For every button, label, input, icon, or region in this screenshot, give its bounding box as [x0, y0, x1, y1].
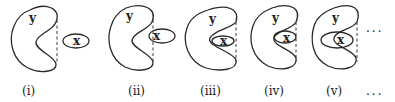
diagram-canvas: y x (i) y x (ii) y x (iii) y x (iv) y x …	[0, 0, 395, 102]
panel-caption: (iv)	[264, 84, 284, 98]
y-label: y	[331, 11, 340, 25]
y-label: y	[125, 9, 134, 23]
y-label: y	[28, 11, 37, 25]
panel-iv: y x (iv)	[251, 6, 298, 98]
panel-i: y x (i)	[11, 6, 89, 98]
panel-ii: y x (ii)	[109, 6, 175, 98]
x-label: x	[220, 34, 228, 48]
panel-caption: (i)	[22, 84, 35, 98]
panel-iii: y x (iii)	[185, 7, 236, 98]
panel-caption: (ii)	[128, 84, 145, 98]
x-label: x	[283, 31, 291, 45]
continuation-ellipsis-top: ...	[366, 21, 383, 35]
continuation-ellipsis-bottom: ...	[366, 84, 383, 98]
y-label: y	[271, 11, 280, 25]
x-label: x	[153, 29, 161, 43]
panel-caption: (iii)	[200, 84, 221, 98]
x-label: x	[73, 34, 81, 48]
panel-v: y x (v)	[312, 6, 358, 98]
panel-caption: (v)	[326, 84, 342, 98]
y-label: y	[208, 12, 217, 26]
x-label: x	[337, 33, 345, 47]
